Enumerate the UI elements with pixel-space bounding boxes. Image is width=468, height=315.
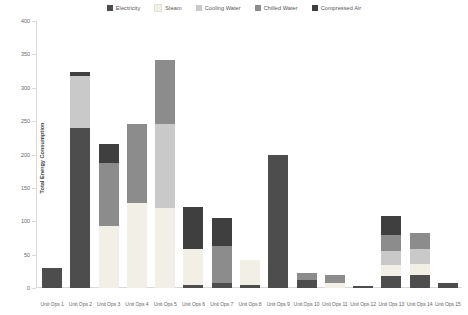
y-axis-tick-label: 400 (21, 18, 30, 24)
bar-segment[interactable] (155, 124, 175, 207)
bar-segment[interactable] (381, 235, 401, 251)
legend-label: Compressed Air (321, 5, 362, 11)
bar-segment[interactable] (127, 203, 147, 288)
bar-slot (123, 21, 151, 288)
y-axis-tick (32, 121, 36, 122)
bar-segment[interactable] (297, 280, 317, 288)
stacked-bar[interactable] (42, 268, 62, 288)
stacked-bar[interactable] (353, 286, 373, 288)
bar-segment[interactable] (240, 260, 260, 285)
bar-segment[interactable] (212, 246, 232, 283)
bar-segment[interactable] (212, 218, 232, 246)
x-axis-label-slot: Unit Ops 12 (349, 292, 377, 310)
bar-segment[interactable] (438, 283, 458, 288)
bar-segment[interactable] (42, 268, 62, 288)
legend-swatch-icon (255, 5, 261, 11)
y-axis-tick-label: 300 (21, 85, 30, 91)
bar-segment[interactable] (183, 249, 203, 284)
bar-segment[interactable] (297, 273, 317, 280)
x-axis-label: Unit Ops 5 (154, 301, 177, 307)
legend-item[interactable]: Steam (154, 4, 181, 12)
chart-root: ElectricitySteamCooling WaterChilled Wat… (0, 0, 468, 315)
bar-segment[interactable] (381, 265, 401, 276)
x-axis-label-slot: Unit Ops 1 (38, 292, 66, 310)
bar-slot (236, 21, 264, 288)
x-axis-label: Unit Ops 1 (41, 301, 64, 307)
bar-segment[interactable] (99, 163, 119, 226)
y-axis-tick (32, 54, 36, 55)
legend-item[interactable]: Chilled Water (255, 5, 298, 11)
y-axis-line (36, 21, 37, 288)
stacked-bar[interactable] (70, 72, 90, 288)
legend-item[interactable]: Electricity (107, 5, 140, 11)
legend-label: Steam (165, 5, 181, 11)
stacked-bar[interactable] (127, 124, 147, 288)
bar-segment[interactable] (325, 275, 345, 283)
legend-swatch-icon (196, 5, 202, 11)
legend-item[interactable]: Cooling Water (196, 5, 241, 11)
y-axis-tick-label: 350 (21, 51, 30, 57)
plot-area: 050100150200250300350400 (38, 21, 462, 288)
bar-segment[interactable] (410, 275, 430, 288)
bar-segment[interactable] (381, 216, 401, 235)
stacked-bar[interactable] (240, 260, 260, 288)
bar-segment[interactable] (127, 124, 147, 203)
bar-segment[interactable] (240, 285, 260, 288)
x-axis-label: Unit Ops 3 (97, 301, 120, 307)
stacked-bar[interactable] (381, 216, 401, 288)
stacked-bar[interactable] (325, 275, 345, 288)
x-axis-label-slot: Unit Ops 9 (264, 292, 292, 310)
x-axis-label: Unit Ops 10 (294, 301, 320, 307)
x-axis-label: Unit Ops 6 (182, 301, 205, 307)
stacked-bar[interactable] (268, 155, 288, 289)
bar-segment[interactable] (353, 286, 373, 288)
stacked-bar[interactable] (99, 144, 119, 288)
bar-segment[interactable] (155, 208, 175, 288)
bar-segment[interactable] (381, 276, 401, 288)
bar-slot (95, 21, 123, 288)
legend-item[interactable]: Compressed Air (312, 5, 362, 11)
bar-segment[interactable] (410, 233, 430, 250)
bar-segment[interactable] (410, 264, 430, 275)
bar-slot (434, 21, 462, 288)
y-axis-tick (32, 288, 36, 289)
x-axis-label-slot: Unit Ops 7 (208, 292, 236, 310)
bar-slot (321, 21, 349, 288)
bar-segment[interactable] (381, 251, 401, 266)
bar-segment[interactable] (212, 283, 232, 288)
x-axis-label: Unit Ops 12 (350, 301, 376, 307)
bar-slot (405, 21, 433, 288)
bar-segment[interactable] (155, 60, 175, 125)
y-axis-tick-label: 50 (24, 252, 30, 258)
x-axis-label-slot: Unit Ops 3 (95, 292, 123, 310)
y-axis-tick (32, 88, 36, 89)
x-axis-label-slot: Unit Ops 4 (123, 292, 151, 310)
stacked-bar[interactable] (410, 233, 430, 288)
legend-swatch-icon (107, 5, 113, 11)
x-axis-label-slot: Unit Ops 6 (179, 292, 207, 310)
bar-segment[interactable] (70, 128, 90, 288)
y-axis-title: Total Energy Consumption (39, 122, 45, 193)
bar-segment[interactable] (99, 226, 119, 288)
bar-segment[interactable] (410, 249, 430, 264)
bar-segment[interactable] (268, 155, 288, 289)
stacked-bar[interactable] (212, 218, 232, 288)
bar-segment[interactable] (183, 285, 203, 288)
x-axis-label: Unit Ops 15 (435, 301, 461, 307)
bar-slot (179, 21, 207, 288)
x-axis-label-slot: Unit Ops 13 (377, 292, 405, 310)
stacked-bar[interactable] (297, 273, 317, 288)
y-axis-tick-label: 100 (21, 218, 30, 224)
x-axis-labels: Unit Ops 1Unit Ops 2Unit Ops 3Unit Ops 4… (38, 292, 462, 310)
stacked-bar[interactable] (438, 283, 458, 288)
stacked-bar[interactable] (183, 207, 203, 288)
bar-segment[interactable] (70, 76, 90, 128)
bar-slot (264, 21, 292, 288)
bar-segment[interactable] (99, 144, 119, 163)
bar-segment[interactable] (183, 207, 203, 250)
x-axis-label: Unit Ops 11 (322, 301, 347, 307)
bar-group (38, 21, 462, 288)
stacked-bar[interactable] (155, 60, 175, 288)
bar-segment[interactable] (325, 283, 345, 288)
y-axis-tick-label: 200 (21, 152, 30, 158)
